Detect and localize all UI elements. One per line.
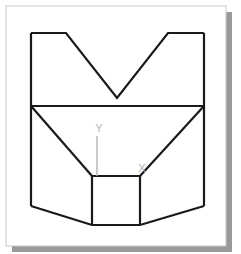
axis-label-y: Y — [95, 122, 103, 134]
drawing-canvas: Y X — [0, 0, 241, 254]
line-drawing-svg: Y X — [0, 0, 241, 254]
axis-label-x: X — [138, 162, 146, 174]
